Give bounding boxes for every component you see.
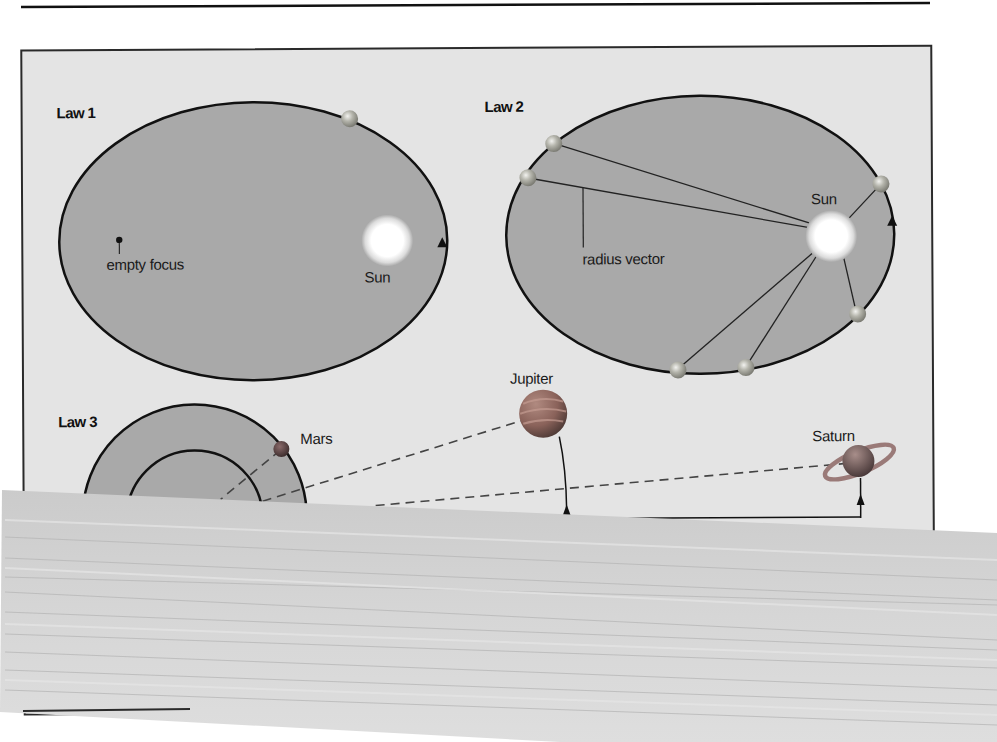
law2-planet-icon bbox=[545, 135, 562, 152]
law2-planet-icon bbox=[669, 361, 686, 378]
law1-sun-icon bbox=[361, 214, 413, 266]
jupiter-planet-icon bbox=[519, 390, 567, 438]
law3-label: Law 3 bbox=[58, 413, 97, 430]
jupiter-label: Jupiter bbox=[510, 370, 553, 387]
mars-label: Mars bbox=[300, 430, 332, 447]
law2-planet-icon bbox=[849, 305, 866, 322]
kepler-laws-diagram: Law 1 empty focus Sun Law 2 bbox=[0, 0, 997, 742]
law2-sun-icon bbox=[805, 210, 857, 262]
top-rule bbox=[21, 3, 930, 7]
law1-group: Law 1 empty focus Sun bbox=[57, 101, 448, 381]
saturn-label: Saturn bbox=[812, 427, 854, 444]
mars-planet-icon bbox=[273, 441, 289, 457]
law2-planet-icon bbox=[737, 359, 754, 376]
law1-sun-label: Sun bbox=[364, 268, 390, 285]
law2-planet-icon bbox=[872, 175, 889, 192]
law2-sun-label: Sun bbox=[811, 190, 837, 207]
law2-label: Law 2 bbox=[485, 98, 524, 115]
law2-vector-label: radius vector bbox=[582, 250, 664, 267]
scan-smear-band bbox=[0, 490, 997, 742]
law1-label: Law 1 bbox=[57, 104, 96, 121]
law2-planet-icon bbox=[519, 169, 536, 186]
law1-planet-icon bbox=[341, 110, 358, 127]
law1-focus-label: empty focus bbox=[106, 256, 184, 273]
